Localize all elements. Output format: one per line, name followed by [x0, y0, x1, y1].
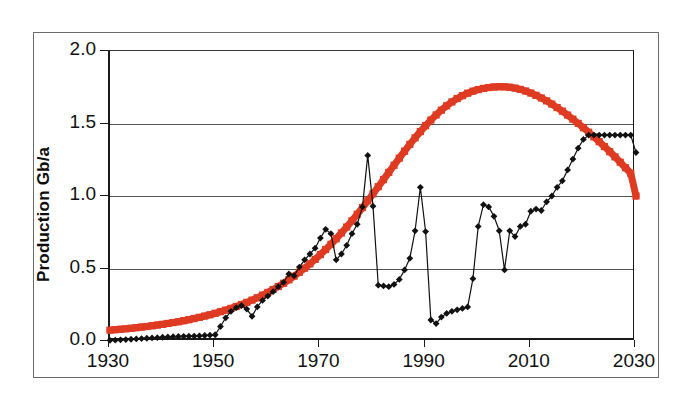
data-point-marker: [464, 304, 471, 311]
data-point-marker: [501, 267, 508, 274]
data-point-marker: [390, 162, 397, 169]
x-tick-mark: [318, 340, 319, 347]
data-point-marker: [470, 275, 477, 282]
data-point-marker: [364, 197, 371, 204]
x-tick-mark: [529, 340, 530, 347]
data-point-marker: [427, 317, 434, 324]
series-line: [110, 135, 636, 340]
y-tick-label-2.0: 2.0: [48, 38, 96, 60]
y-tick-label-1.0: 1.0: [48, 183, 96, 205]
x-tick-mark: [634, 340, 635, 347]
data-point-marker: [217, 323, 224, 330]
data-point-marker: [454, 306, 461, 313]
data-point-marker: [475, 223, 482, 230]
data-point-marker: [375, 282, 382, 289]
data-point-marker: [406, 141, 413, 148]
plot-area: [108, 50, 634, 340]
data-series-layer: [110, 51, 636, 341]
y-tick-mark: [100, 340, 108, 341]
y-tick-label-0.5: 0.5: [48, 256, 96, 278]
y-tick-label-0.0: 0.0: [48, 328, 96, 350]
x-tick-label-1970: 1970: [278, 350, 358, 372]
x-tick-label-2010: 2010: [489, 350, 569, 372]
data-point-marker: [491, 213, 498, 220]
data-point-marker: [459, 305, 466, 312]
data-point-marker: [380, 283, 387, 290]
x-tick-label-1930: 1930: [68, 350, 148, 372]
data-point-marker: [317, 235, 324, 242]
y-tick-label-1.5: 1.5: [48, 111, 96, 133]
data-point-marker: [396, 155, 403, 162]
data-point-marker: [212, 331, 219, 338]
data-point-marker: [348, 217, 355, 224]
x-tick-mark: [213, 340, 214, 347]
x-tick-label-1990: 1990: [384, 350, 464, 372]
data-point-marker: [569, 156, 576, 163]
data-point-marker: [575, 145, 582, 152]
x-tick-label-1950: 1950: [173, 350, 253, 372]
y-tick-mark: [100, 195, 108, 196]
data-point-marker: [538, 207, 545, 214]
data-point-marker: [632, 192, 639, 199]
data-point-marker: [417, 184, 424, 191]
x-tick-mark: [424, 340, 425, 347]
data-point-marker: [343, 242, 350, 249]
x-tick-label-2030: 2030: [594, 350, 674, 372]
data-point-marker: [369, 190, 376, 197]
data-point-marker: [564, 167, 571, 174]
data-point-marker: [406, 255, 413, 262]
y-tick-mark: [100, 268, 108, 269]
data-point-marker: [422, 228, 429, 235]
data-point-marker: [385, 169, 392, 176]
data-point-marker: [412, 227, 419, 234]
data-point-marker: [343, 223, 350, 230]
data-point-marker: [380, 176, 387, 183]
series-black-historical-curve: [107, 132, 640, 344]
data-point-marker: [627, 170, 634, 177]
data-point-marker: [349, 230, 356, 237]
chart-screenshot: Production Gb/a 0.00.51.01.52.0 19301950…: [0, 0, 683, 399]
data-point-marker: [364, 152, 371, 159]
data-point-marker: [401, 148, 408, 155]
y-tick-mark: [100, 50, 108, 51]
data-point-marker: [496, 227, 503, 234]
data-point-marker: [627, 132, 634, 139]
data-point-marker: [401, 267, 408, 274]
data-point-marker: [411, 134, 418, 141]
x-tick-mark: [108, 340, 109, 347]
y-tick-mark: [100, 123, 108, 124]
data-point-marker: [375, 183, 382, 190]
